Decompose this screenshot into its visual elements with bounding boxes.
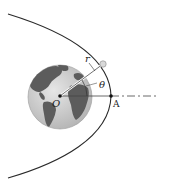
label-theta: θ <box>99 79 105 90</box>
orbit-diagram: r θ O A <box>0 0 169 179</box>
satellite <box>100 61 106 67</box>
perigee-point <box>109 94 113 98</box>
label-A: A <box>112 99 120 109</box>
radius-dimension-mark <box>89 63 95 71</box>
label-origin: O <box>52 98 60 109</box>
